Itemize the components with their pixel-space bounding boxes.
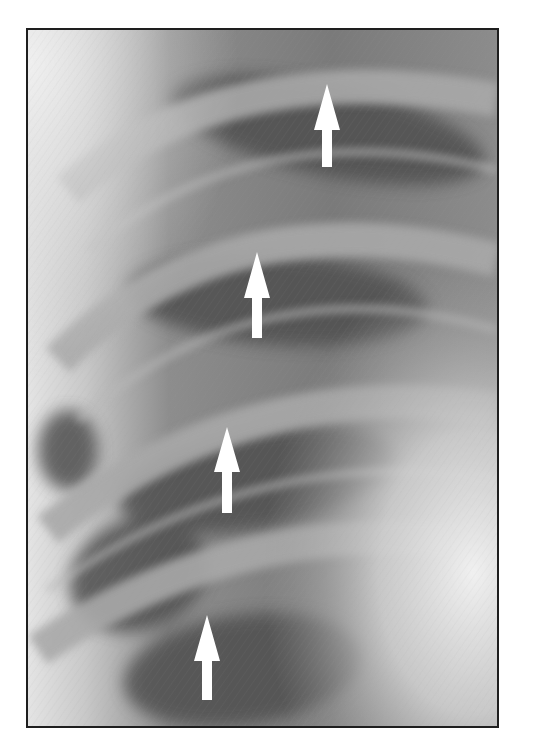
- xray-image-frame: [26, 28, 499, 728]
- xray-image: [28, 30, 497, 726]
- arrow-up-icon-1: [312, 84, 342, 167]
- arrow-up-icon-4: [192, 615, 222, 700]
- arrow-up-icon-3: [212, 427, 242, 513]
- arrow-up-icon-2: [242, 252, 272, 338]
